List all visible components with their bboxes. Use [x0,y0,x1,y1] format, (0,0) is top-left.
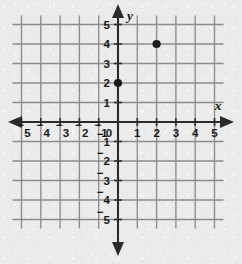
y-tick-label: 4 [104,38,111,50]
y-axis-label: y [125,8,134,23]
coordinate-plane-svg: −5−4−3−2−112345 54321−1−2−3−4−5 0 x y [0,0,242,264]
x-axis-label: x [214,98,222,113]
y-tick-label: 2 [104,77,110,89]
y-tick-label: 1 [104,97,111,109]
x-tick-label: 4 [192,127,199,139]
y-tick-label: 3 [104,58,110,70]
y-tick-label: 5 [104,19,111,31]
x-tick-label: 1 [134,127,141,139]
x-axis-right-arrow [220,116,234,128]
x-tick-label: 3 [173,127,179,139]
coordinate-plane-figure: −5−4−3−2−112345 54321−1−2−3−4−5 0 x y [0,0,242,264]
origin-label: 0 [106,127,112,139]
data-point [153,40,161,48]
data-point [114,79,122,87]
y-axis-up-arrow [112,4,124,18]
x-tick-label: 2 [153,127,159,139]
x-tick-label: 5 [211,127,218,139]
y-axis-down-arrow [112,242,124,256]
